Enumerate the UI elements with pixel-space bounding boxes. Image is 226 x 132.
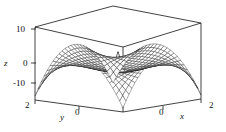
y-tick-2: 2 [25, 101, 30, 110]
z-tick-0: 0 [23, 59, 28, 68]
x-axis-title: x [180, 112, 184, 121]
z-tick-neg10: -10 [13, 79, 25, 88]
surface-wireframe-mesh [35, 44, 201, 108]
surface-plot-canvas [0, 0, 226, 132]
x-tick-0: 0 [159, 108, 164, 117]
y-axis-title: y [60, 113, 64, 122]
z-tick-10: 10 [16, 25, 25, 34]
x-tick-2: 2 [209, 101, 214, 110]
z-axis-title: z [4, 59, 8, 68]
y-tick-0: 0 [75, 108, 80, 117]
figure-3d-surface-plot: 10 0 -10 z 2 0 y 0 2 x [0, 0, 226, 132]
